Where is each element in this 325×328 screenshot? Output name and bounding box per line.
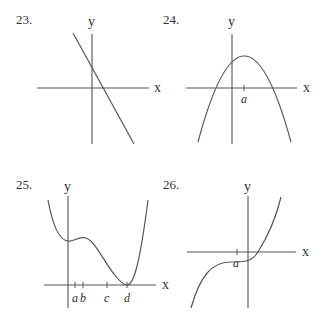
tick-label-b-25: b	[80, 291, 86, 305]
tick-label-a-26: a	[233, 256, 239, 270]
y-axis-label-24: y	[228, 14, 235, 29]
x-axis-label-25: x	[162, 277, 169, 292]
tick-label-c-25: c	[104, 291, 110, 305]
y-axis-label-25: y	[64, 179, 71, 194]
graph-23: 23. y x	[16, 12, 161, 144]
problem-number-26: 26.	[163, 177, 179, 192]
tick-label-a-25: a	[72, 291, 78, 305]
x-axis-label-23: x	[154, 80, 161, 95]
x-axis-label-24: x	[303, 80, 310, 95]
x-axis-label-26: x	[302, 244, 309, 259]
problem-number-24: 24.	[163, 12, 179, 27]
graph-25: 25. y x a b c d	[16, 177, 169, 308]
curve-graph-25	[48, 200, 148, 285]
problem-number-25: 25.	[16, 177, 32, 192]
tick-label-d-25: d	[124, 291, 131, 305]
graphs-figure: 23. y x 24. y x a 25. y x a b c d 26. y	[0, 0, 325, 328]
y-axis-label-26: y	[244, 179, 251, 194]
y-axis-label-23: y	[88, 14, 95, 29]
graph-24: 24. y x a	[163, 12, 310, 144]
tick-label-a-24: a	[241, 92, 247, 106]
graph-26: 26. y x a	[163, 177, 309, 308]
problem-number-23: 23.	[16, 12, 32, 27]
